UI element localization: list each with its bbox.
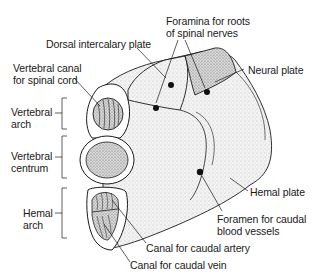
foramen-caudal-dot xyxy=(197,169,203,175)
label-line: Foramina for roots xyxy=(166,15,250,27)
foramen-dot-1 xyxy=(168,82,174,88)
label-line: Vertebral xyxy=(11,150,52,162)
foramen-dot-3 xyxy=(204,89,210,95)
label-hemal-arch: Hemal arch xyxy=(23,207,53,231)
label-canal-artery: Canal for caudal artery xyxy=(146,242,250,254)
label-vertebral-canal: Vertebral canal for spinal cord xyxy=(13,62,82,86)
label-line: blood vessels xyxy=(217,225,306,237)
label-line: Hemal xyxy=(23,207,53,219)
label-dorsal-intercalary-plate: Dorsal intercalary plate xyxy=(46,38,151,50)
label-line: centrum xyxy=(11,162,52,174)
label-line: Vertebral xyxy=(11,106,52,118)
label-foramina-roots: Foramina for roots of spinal nerves xyxy=(166,15,250,39)
label-line: Vertebral canal xyxy=(13,62,82,74)
label-line: of spinal nerves xyxy=(166,27,250,39)
foramen-dot-2 xyxy=(153,105,159,111)
label-neural-plate: Neural plate xyxy=(248,64,303,76)
label-line: Foramen for caudal xyxy=(217,213,306,225)
label-line: arch xyxy=(11,118,52,130)
dorsal-intercalary-plate-shape xyxy=(128,56,188,110)
label-line: for spinal cord xyxy=(13,74,82,86)
label-foramen-caudal: Foramen for caudal blood vessels xyxy=(217,213,306,237)
label-canal-vein: Canal for caudal vein xyxy=(130,259,227,271)
label-vertebral-centrum: Vertebral centrum xyxy=(11,150,52,174)
label-hemal-plate: Hemal plate xyxy=(250,186,305,198)
label-line: arch xyxy=(23,219,53,231)
label-vertebral-arch: Vertebral arch xyxy=(11,106,52,130)
